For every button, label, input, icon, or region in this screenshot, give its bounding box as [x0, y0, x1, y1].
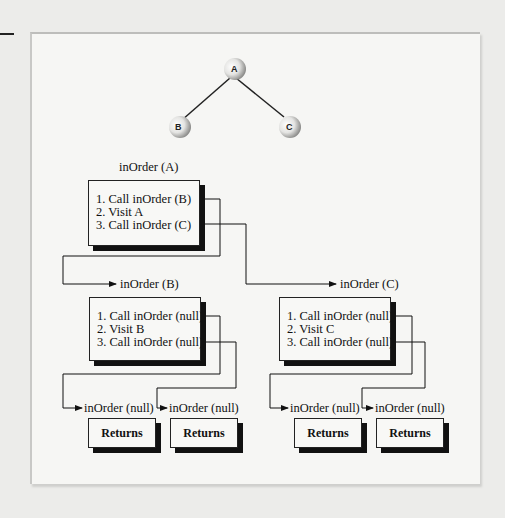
returns-box: Returns — [294, 418, 362, 448]
call-box-a: 1. Call inOrder (B) 2. Visit A 3. Call i… — [88, 180, 200, 246]
returns-box: Returns — [170, 418, 238, 448]
tree-node-c-label: C — [286, 122, 293, 132]
call-box-c: 1. Call inOrder (null) 2. Visit C 3. Cal… — [279, 297, 391, 361]
call-caption-a: inOrder (A) — [119, 160, 178, 175]
tree-node-a-label: A — [231, 64, 238, 74]
null-call-caption: inOrder (null) — [375, 401, 445, 416]
step-line: 3. Call inOrder (null) — [97, 336, 200, 349]
null-call-caption: inOrder (null) — [169, 401, 239, 416]
call-caption-c: inOrder (C) — [340, 277, 399, 292]
returns-box: Returns — [88, 418, 156, 448]
step-line: 3. Call inOrder (null) — [287, 336, 390, 349]
tree-node-b-label: B — [175, 122, 182, 132]
returns-box: Returns — [376, 418, 444, 448]
call-box-b: 1. Call inOrder (null) 2. Visit B 3. Cal… — [89, 297, 201, 361]
call-caption-b: inOrder (B) — [120, 277, 179, 292]
null-call-caption: inOrder (null) — [84, 401, 154, 416]
step-line: 3. Call inOrder (C) — [96, 219, 199, 232]
null-call-caption: inOrder (null) — [290, 401, 360, 416]
